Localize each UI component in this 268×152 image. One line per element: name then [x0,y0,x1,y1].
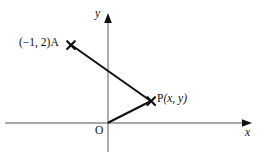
y-axis-label: y [95,8,100,20]
diagram-canvas: (−1, 2)A P(x, y) y x O [0,0,268,152]
coordinate-diagram-svg [0,0,268,152]
point-a-label: (−1, 2)A [19,37,59,49]
y-axis-arrow-icon [104,13,112,23]
point-p-label: P(x, y) [157,93,187,105]
segment-o-to-p [109,102,151,123]
point-a-cross-marker [67,41,75,49]
origin-label: O [95,125,103,137]
x-axis-label: x [245,127,250,139]
point-a-name-text: A [50,36,58,48]
segment-a-to-p [72,46,150,101]
point-p-coordinates-text: (x, y) [163,92,187,104]
point-a-coordinates-text: (−1, 2) [19,36,50,48]
